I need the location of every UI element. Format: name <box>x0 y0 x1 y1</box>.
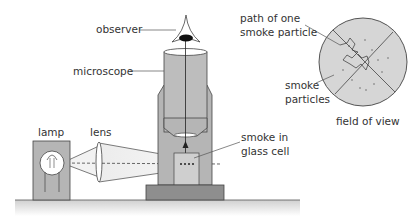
label-observer: observer <box>96 23 143 35</box>
label-smoke-cell-1: smoke in <box>241 131 288 143</box>
label-path-1: path of one <box>240 12 300 24</box>
brownian-motion-diagram: observer microscope lamp lens smoke in g… <box>0 0 414 217</box>
lamp <box>33 141 70 200</box>
label-path-2: smoke particle <box>240 26 317 38</box>
label-field-of-view: field of view <box>336 115 400 127</box>
field-of-view <box>319 18 407 106</box>
observer-eye-icon <box>172 15 200 42</box>
lens <box>96 142 102 182</box>
bench <box>15 200 300 216</box>
label-lens: lens <box>90 126 112 138</box>
label-smoke-cell-2: glass cell <box>241 145 289 157</box>
label-lamp: lamp <box>38 126 65 138</box>
label-particles-2: particles <box>285 93 330 105</box>
label-microscope: microscope <box>73 65 133 77</box>
label-particles-1: smoke <box>285 79 319 91</box>
microscope <box>146 30 224 200</box>
